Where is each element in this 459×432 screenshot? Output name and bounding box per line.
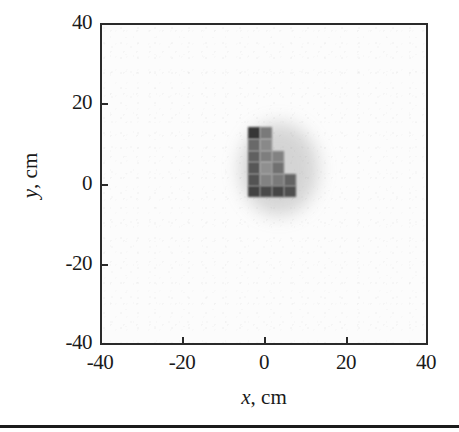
heatmap-cell (260, 186, 272, 198)
heatmap-cell (272, 174, 284, 186)
heatmap-cell (248, 127, 260, 139)
x-axis-symbol: x (241, 385, 250, 409)
heatmap-cell (284, 186, 296, 198)
x-tick-40 (426, 337, 428, 345)
y-axis-unit: , cm (18, 153, 42, 189)
plot-area (100, 23, 428, 345)
x-ticklabel-0: 0 (229, 350, 299, 375)
y-ticklabel-40: 40 (32, 10, 92, 35)
heatmap-cell (260, 162, 272, 174)
x-axis-unit: , cm (251, 385, 287, 409)
heatmap-cell (248, 151, 260, 163)
heatmap-cell (260, 174, 272, 186)
y-axis-title: y, cm (18, 106, 43, 246)
heatmap-cell (260, 127, 272, 139)
heatmap-cell (248, 174, 260, 186)
figure-panel: 40 20 0 -20 -40 -40 -20 0 20 40 y, cm x,… (0, 0, 459, 432)
x-tick-0 (264, 337, 266, 345)
x-ticklabel-40: 40 (391, 350, 459, 375)
y-tick-m20 (100, 264, 108, 266)
heatmap-cell (272, 186, 284, 198)
x-tick-m20 (182, 337, 184, 345)
x-ticklabel-m20: -20 (147, 350, 217, 375)
y-tick-20 (100, 103, 108, 105)
y-ticklabel-m20: -20 (32, 251, 92, 276)
x-tick-m40 (100, 337, 102, 345)
x-axis-title: x, cm (100, 385, 428, 410)
heatmap-cell (260, 139, 272, 151)
bottom-rule (0, 425, 459, 428)
heatmap-cell (272, 162, 284, 174)
x-tick-20 (346, 337, 348, 345)
y-tick-40 (100, 23, 108, 25)
heatmap-cell (260, 151, 272, 163)
heatmap-cell (284, 174, 296, 186)
y-axis-symbol: y (18, 189, 42, 198)
x-ticklabel-20: 20 (311, 350, 381, 375)
y-tick-0 (100, 184, 108, 186)
heatmap-cell (248, 162, 260, 174)
heatmap-cell (272, 151, 284, 163)
heatmap-cell (248, 186, 260, 198)
x-ticklabel-m40: -40 (65, 350, 135, 375)
heatmap-cell (248, 139, 260, 151)
